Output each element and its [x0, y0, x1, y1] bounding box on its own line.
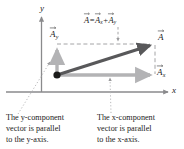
- x-component-caption-line-2: vector is parallel: [97, 124, 183, 135]
- origin-dot: [53, 71, 60, 78]
- vector-label-y-component: A y: [50, 30, 58, 40]
- equation-term2-subscript: y: [114, 19, 116, 25]
- vector-label-resultant-letter: A: [158, 33, 164, 42]
- vector-label-y-component-letter: A: [50, 30, 56, 39]
- x-caption-leader-line: [110, 78, 111, 113]
- equation-term2: A: [108, 16, 113, 25]
- equation-lhs: A: [84, 16, 89, 25]
- y-axis-label: y: [40, 4, 44, 13]
- vector-sum-equation: A = A x+ A y: [84, 16, 116, 26]
- vector-diagram-figure: y x A A x A y: [0, 0, 184, 149]
- vector-label-x-component: A x: [157, 68, 165, 78]
- equation-equals-sign: =: [90, 15, 95, 25]
- y-caption-leader-line: [18, 62, 50, 114]
- vector-label-x-component-letter: A: [157, 68, 163, 77]
- vector-label-x-component-subscript: x: [163, 72, 166, 78]
- vector-label-y-component-subscript: y: [56, 34, 59, 40]
- x-component-caption: The x-component vector is parallel to th…: [97, 113, 183, 145]
- y-component-caption-line-1: The y-component: [6, 113, 92, 124]
- y-component-caption: The y-component vector is parallel to th…: [6, 113, 92, 145]
- x-axis-label: x: [172, 86, 176, 95]
- equation-term1: A: [95, 16, 100, 25]
- y-component-caption-line-3: to the y-axis.: [6, 135, 92, 146]
- vector-label-resultant: A: [158, 33, 164, 42]
- x-component-caption-line-1: The x-component: [97, 113, 183, 124]
- vector-resultant: [57, 46, 150, 76]
- x-component-caption-line-3: to the x-axis.: [97, 135, 183, 146]
- y-component-caption-line-2: vector is parallel: [6, 124, 92, 135]
